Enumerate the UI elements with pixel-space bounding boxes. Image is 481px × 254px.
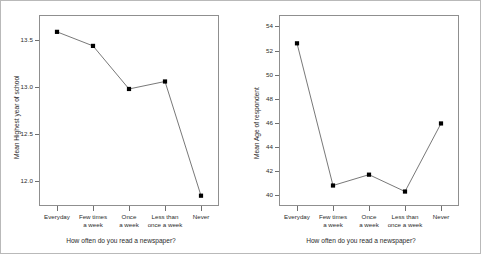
y-axis-tick-label: 40 <box>241 191 273 198</box>
x-axis-tick-mark <box>405 206 406 211</box>
chart-panel-right: 4042444648505254 EverydayFew times a wee… <box>241 1 481 254</box>
data-point-marker <box>127 87 131 91</box>
y-axis-tick-label: 12.0 <box>1 177 33 184</box>
x-axis-tick-label: Never <box>173 213 229 221</box>
y-axis-tick-label: 52 <box>241 47 273 54</box>
data-point-marker <box>295 41 299 45</box>
data-point-marker <box>199 194 203 198</box>
x-axis-title-left: How often do you read a newspaper? <box>1 237 241 244</box>
y-axis-tick-label: 54 <box>241 22 273 29</box>
data-point-marker <box>55 30 59 34</box>
x-axis-tick-mark <box>441 206 442 211</box>
y-axis-tick-mark <box>35 134 39 135</box>
y-axis-tick-label: 42 <box>241 167 273 174</box>
x-axis-tick-mark <box>57 206 58 211</box>
y-axis-tick-mark <box>275 75 279 76</box>
data-point-marker <box>163 79 167 83</box>
x-axis-tick-mark <box>129 206 130 211</box>
data-point-marker <box>403 189 407 193</box>
y-axis-tick-label: 50 <box>241 71 273 78</box>
y-axis-tick-mark <box>35 181 39 182</box>
y-axis-tick-mark <box>275 51 279 52</box>
x-axis-tick-mark <box>333 206 334 211</box>
y-axis-tick-mark <box>275 171 279 172</box>
data-point-marker <box>331 183 335 187</box>
data-point-marker <box>367 173 371 177</box>
x-axis-tick-mark <box>93 206 94 211</box>
chart-panel-left: 12.012.513.013.5 EverydayFew times a wee… <box>1 1 241 254</box>
y-axis-tick-mark <box>35 87 39 88</box>
series-line <box>297 43 441 191</box>
y-axis-tick-mark <box>35 40 39 41</box>
y-axis-tick-mark <box>275 147 279 148</box>
x-axis-tick-mark <box>297 206 298 211</box>
y-axis-tick-mark <box>275 26 279 27</box>
x-axis-tick-mark <box>201 206 202 211</box>
x-axis-tick-mark <box>165 206 166 211</box>
x-axis-title-right: How often do you read a newspaper? <box>241 237 481 244</box>
data-point-marker <box>91 44 95 48</box>
y-axis-tick-label: 13.5 <box>1 36 33 43</box>
y-axis-title-left: Mean Highest year of school <box>13 75 20 159</box>
x-axis-tick-mark <box>369 206 370 211</box>
series-line <box>57 32 201 196</box>
y-axis-tick-mark <box>275 123 279 124</box>
y-axis-tick-mark <box>275 99 279 100</box>
y-axis-tick-mark <box>275 195 279 196</box>
data-point-marker <box>439 121 443 125</box>
y-axis-title-right: Mean Age of respondent <box>253 87 260 159</box>
x-axis-tick-label: Never <box>413 213 469 221</box>
figure-canvas: 12.012.513.013.5 EverydayFew times a wee… <box>0 0 481 254</box>
